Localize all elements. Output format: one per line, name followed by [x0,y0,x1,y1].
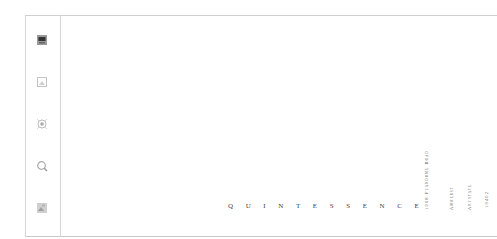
address-city: Amherst [449,186,454,210]
gallery-icon[interactable] [36,202,48,214]
address-state: Anystate [467,184,472,210]
sidebar-divider [60,15,61,237]
photo-icon[interactable] [36,34,48,46]
brand-wordmark: QUINTESSENCE [228,202,431,210]
address-street: 1068 Plandome Road [424,150,429,210]
address-zip: 19402 [484,191,489,208]
target-icon[interactable] [36,118,48,130]
image-icon[interactable] [36,76,48,88]
search-icon[interactable] [36,160,48,172]
